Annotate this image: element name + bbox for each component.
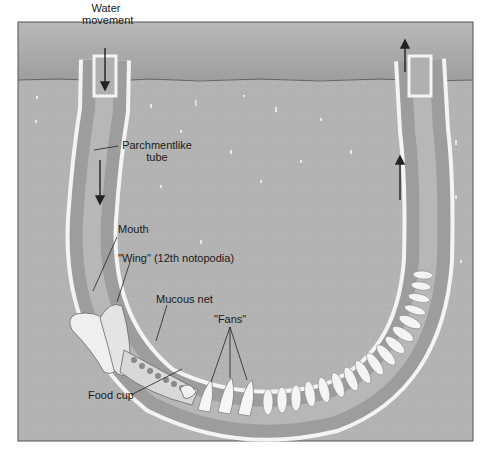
label-mucous-net: Mucous net	[156, 293, 213, 305]
label-tube-line2: tube	[118, 151, 196, 163]
label-water-movement-line2: movement	[82, 14, 130, 26]
label-wing: "Wing" (12th notopodia)	[118, 252, 234, 264]
burrow-illustration	[0, 0, 493, 453]
label-mouth: Mouth	[118, 223, 149, 235]
label-fans: "Fans"	[214, 313, 246, 325]
label-water-movement-line1: Water	[82, 2, 130, 14]
diagram-stage: Water movement Parchmentlike tube Mouth …	[0, 0, 493, 453]
label-food-cup: Food cup	[88, 389, 134, 401]
label-parchmentlike-tube: Parchmentlike tube	[118, 139, 196, 163]
label-tube-line1: Parchmentlike	[118, 139, 196, 151]
label-water-movement: Water movement	[82, 2, 130, 26]
